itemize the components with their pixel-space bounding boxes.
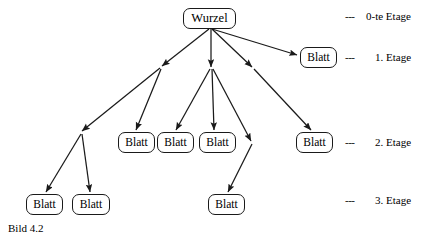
node-leaf-label: Blatt <box>33 199 55 211</box>
level-label-0: 0-te Etage <box>366 10 411 22</box>
level-dash-0: --- <box>345 10 355 22</box>
node-leaf-level3-3[interactable]: Blatt <box>208 194 245 215</box>
node-leaf-label: Blatt <box>307 52 329 64</box>
edge-junction-right-to-leaf-l2-4 <box>254 69 311 130</box>
node-leaf-level2-4[interactable]: Blatt <box>296 132 333 153</box>
node-leaf-level1-1[interactable]: Blatt <box>300 47 337 68</box>
level-dash-3: --- <box>345 194 355 206</box>
edge-junction-center-to-leaf-l2-2 <box>176 69 210 130</box>
node-leaf-level2-3[interactable]: Blatt <box>199 132 236 153</box>
level-dash-1: --- <box>345 51 355 63</box>
edge-junction-center-to-leaf-l2-3 <box>212 69 214 130</box>
edge-junction-left-to-leaf-l2-1 <box>136 69 161 130</box>
level-dash-2: --- <box>345 136 355 148</box>
edge-junction-lower-left-to-leaf-l3-2 <box>82 134 90 192</box>
node-leaf-level3-2[interactable]: Blatt <box>72 194 110 215</box>
edge-junction-center-to-junction-lower-right <box>213 69 251 141</box>
node-leaf-level3-1[interactable]: Blatt <box>26 194 63 215</box>
edge-root-to-leaf-1 <box>212 29 297 55</box>
node-leaf-label: Blatt <box>164 137 186 149</box>
node-leaf-level2-2[interactable]: Blatt <box>157 132 194 153</box>
edge-root-to-junction-left <box>162 29 209 66</box>
node-leaf-level2-1[interactable]: Blatt <box>118 132 155 153</box>
figure-canvas: Wurzel Blatt Blatt Blatt Blatt Blatt Bla… <box>0 0 428 243</box>
node-leaf-label: Blatt <box>206 137 228 149</box>
node-root[interactable]: Wurzel <box>183 8 236 29</box>
node-root-label: Wurzel <box>191 12 227 25</box>
level-label-3: 3. Etage <box>375 194 411 206</box>
edge-junction-lower-left-to-leaf-l3-1 <box>46 134 81 192</box>
node-leaf-label: Blatt <box>125 137 147 149</box>
node-leaf-label: Blatt <box>80 199 102 211</box>
node-leaf-label: Blatt <box>215 199 237 211</box>
level-label-2: 2. Etage <box>375 136 411 148</box>
node-leaf-label: Blatt <box>303 137 325 149</box>
level-label-1: 1. Etage <box>375 51 411 63</box>
figure-caption: Bild 4.2 <box>8 222 43 234</box>
